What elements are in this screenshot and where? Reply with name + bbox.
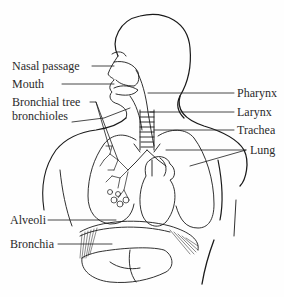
leader-lines	[48, 66, 246, 244]
respiratory-diagram: Nasal passage Mouth Bronchial tree bronc…	[0, 0, 284, 297]
heart	[140, 157, 175, 227]
label-larynx: Larynx	[237, 106, 272, 119]
anatomy-illustration	[0, 0, 284, 297]
label-nasal-passage: Nasal passage	[12, 60, 80, 73]
label-bronchioles: bronchioles	[12, 110, 68, 123]
label-bronchia: Bronchia	[10, 238, 54, 251]
lung-left	[88, 135, 136, 224]
diaphragm-hatching	[80, 228, 198, 258]
nasal-cavity	[114, 61, 139, 86]
label-bronchial-tree: Bronchial tree	[12, 96, 80, 109]
label-pharynx: Pharynx	[237, 87, 277, 100]
pharynx-tube	[136, 70, 154, 146]
bronchial-tree	[100, 146, 129, 207]
label-trachea: Trachea	[237, 124, 275, 137]
label-mouth: Mouth	[12, 78, 44, 91]
label-lung: Lung	[250, 144, 275, 157]
lung-right	[158, 130, 214, 228]
label-alveoli: Alveoli	[10, 214, 46, 227]
diaphragm	[80, 221, 198, 250]
tongue	[114, 86, 138, 95]
